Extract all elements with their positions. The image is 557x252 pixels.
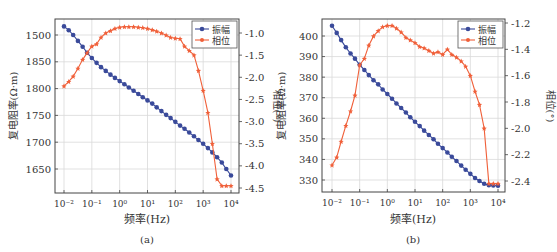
y-right-tick-label: -2.2 xyxy=(511,149,530,160)
data-point-amplitude xyxy=(62,24,67,29)
y-left-tick-label: 350 xyxy=(299,133,318,144)
data-point-amplitude xyxy=(215,155,220,160)
data-point-phase xyxy=(122,24,127,29)
data-point-amplitude xyxy=(76,39,81,44)
data-point-amplitude xyxy=(454,159,459,164)
legend-marker-circle xyxy=(466,27,471,32)
data-point-amplitude xyxy=(196,138,201,143)
data-point-amplitude xyxy=(117,79,122,84)
data-point-amplitude xyxy=(90,56,95,61)
x-tick-label: 10¹ xyxy=(407,198,422,208)
data-point-amplitude xyxy=(353,56,358,61)
data-point-phase xyxy=(422,45,427,50)
x-tick-label: 10⁴ xyxy=(490,198,505,208)
data-point-amplitude xyxy=(140,95,145,100)
y-left-tick-label: 340 xyxy=(299,154,318,165)
data-point-amplitude xyxy=(159,109,164,114)
data-point-phase xyxy=(154,29,159,34)
data-point-phase xyxy=(408,38,413,43)
y-right-tick-label: -4.0 xyxy=(245,160,264,171)
y-left-tick-label: 1500 xyxy=(26,30,51,41)
data-point-amplitude xyxy=(440,146,445,151)
data-point-amplitude xyxy=(399,106,404,111)
data-point-amplitude xyxy=(380,87,385,92)
y-right-tick-label: -1.6 xyxy=(511,70,530,81)
data-point-amplitude xyxy=(80,44,85,49)
data-point-amplitude xyxy=(366,73,371,78)
data-point-amplitude xyxy=(127,85,132,90)
x-axis-label-a: 频率(Hz) xyxy=(124,212,170,226)
data-point-amplitude xyxy=(201,142,206,147)
data-point-amplitude xyxy=(445,150,450,155)
y-right-tick-label: -2.5 xyxy=(245,94,264,105)
data-point-amplitude xyxy=(113,76,118,81)
data-point-phase xyxy=(126,24,131,29)
y-right-tick-label: -1.4 xyxy=(511,44,530,55)
data-point-amplitude xyxy=(376,82,381,87)
data-point-amplitude xyxy=(99,65,104,70)
x-tick-label: 10¹ xyxy=(140,199,155,209)
data-point-amplitude xyxy=(173,120,178,125)
data-point-amplitude xyxy=(66,28,71,33)
data-point-phase xyxy=(224,183,229,188)
data-point-amplitude xyxy=(334,31,339,36)
y-left-tick-label: 1650 xyxy=(26,164,51,175)
data-point-phase xyxy=(75,66,80,71)
legend-label: 振幅 xyxy=(212,24,230,35)
data-point-amplitude xyxy=(427,133,432,138)
y-right-tick-label: -1.2 xyxy=(511,18,530,29)
data-point-amplitude xyxy=(459,163,464,168)
data-point-amplitude xyxy=(192,134,197,139)
data-point-phase xyxy=(431,51,436,56)
legend-b: 振幅相位 xyxy=(458,21,503,48)
y-right-tick-label: -2.4 xyxy=(511,176,530,187)
data-point-amplitude xyxy=(220,160,225,165)
data-point-amplitude xyxy=(344,45,349,50)
data-point-phase xyxy=(472,89,477,94)
data-point-amplitude xyxy=(154,105,159,110)
y-axis-left-b: 330340350360370380390400 xyxy=(299,31,325,186)
data-point-amplitude xyxy=(145,98,150,103)
data-point-amplitude xyxy=(417,124,422,129)
data-point-phase xyxy=(140,25,145,30)
x-tick-label: 10⁻¹ xyxy=(350,198,370,208)
data-point-amplitude xyxy=(413,119,418,124)
y-axis-right-label-b: 相位(°) xyxy=(545,90,557,123)
y-right-tick-label: -1.5 xyxy=(245,50,264,61)
data-point-amplitude xyxy=(330,23,335,28)
legend-label: 相位 xyxy=(478,35,496,46)
panel-label-b: (b) xyxy=(406,234,420,245)
data-point-amplitude xyxy=(362,68,367,73)
data-point-amplitude xyxy=(449,154,454,159)
data-point-amplitude xyxy=(187,130,192,135)
data-point-amplitude xyxy=(131,88,136,93)
y-axis-right-a: -4.5-4.0-3.5-3.0-2.5-2.0-1.5-1.0 xyxy=(239,28,264,194)
legend-marker-star xyxy=(200,38,204,42)
x-tick-label: 10⁻² xyxy=(322,198,342,208)
y-right-tick-label: -3.5 xyxy=(245,138,264,149)
data-point-amplitude xyxy=(71,33,76,38)
y-left-tick-label: 330 xyxy=(299,175,318,186)
data-point-amplitude xyxy=(103,69,108,74)
data-point-amplitude xyxy=(339,38,344,43)
data-point-amplitude xyxy=(385,92,390,97)
data-point-phase xyxy=(366,43,371,48)
panel-label-a: (a) xyxy=(140,234,154,245)
y-left-tick-label: 380 xyxy=(299,72,318,83)
legend-marker-star xyxy=(466,38,470,42)
figure: 10⁻²10⁻¹10⁰10¹10²10³10⁴ 1650170017501800… xyxy=(0,0,557,252)
data-point-amplitude xyxy=(477,179,482,184)
x-tick-label: 10⁰ xyxy=(380,198,395,208)
data-point-amplitude xyxy=(431,137,436,142)
y-axis-left-label-b: 复电阻率(Ω·m) xyxy=(275,72,287,141)
legend-marker-circle xyxy=(200,27,205,32)
y-left-tick-label: 400 xyxy=(299,31,318,42)
y-left-tick-label: 370 xyxy=(299,92,318,103)
data-point-amplitude xyxy=(206,146,211,151)
data-point-phase xyxy=(131,24,136,29)
chart-panel-a: 10⁻²10⁻¹10⁰10¹10²10³10⁴ 1650170017501800… xyxy=(7,19,284,245)
data-point-amplitude xyxy=(108,72,113,77)
data-point-phase xyxy=(136,25,141,30)
x-tick-label: 10⁻¹ xyxy=(82,199,102,209)
data-point-amplitude xyxy=(182,127,187,132)
